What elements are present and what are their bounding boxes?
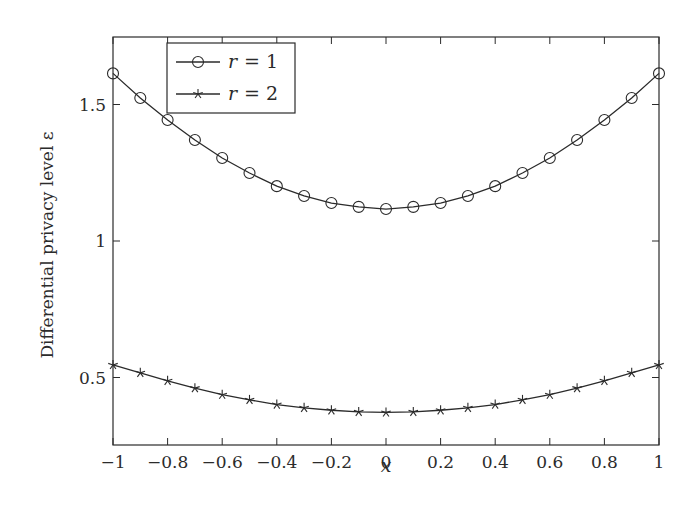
legend: r= 1r= 2 — [167, 43, 295, 113]
x-tick-label: 1 — [654, 452, 665, 472]
circle-marker-icon — [572, 134, 583, 145]
x-tick-label: −0.4 — [256, 452, 297, 472]
x-tick-label: 0.4 — [482, 452, 509, 472]
x-tick-label: 0.8 — [591, 452, 618, 472]
circle-marker-icon — [193, 57, 204, 68]
circle-marker-icon — [654, 68, 665, 79]
circle-marker-icon — [162, 115, 173, 126]
circle-marker-icon — [244, 168, 255, 179]
circle-marker-icon — [408, 201, 419, 212]
x-tick-label: −0.6 — [202, 452, 243, 472]
circle-marker-icon — [544, 153, 555, 164]
circle-marker-icon — [326, 198, 337, 209]
y-tick-label: 1.5 — [79, 95, 106, 115]
legend-label: = 2 — [244, 82, 278, 104]
x-tick-label: 0.2 — [427, 452, 454, 472]
circle-marker-icon — [271, 181, 282, 192]
circle-marker-icon — [381, 204, 392, 215]
circle-marker-icon — [462, 190, 473, 201]
circle-marker-icon — [490, 181, 501, 192]
x-tick-label: −0.8 — [147, 452, 188, 472]
x-tick-label: 0.6 — [536, 452, 563, 472]
x-tick-label: −0.2 — [311, 452, 352, 472]
series-2 — [108, 360, 664, 417]
circle-marker-icon — [189, 134, 200, 145]
y-tick-label: 1 — [95, 231, 106, 251]
circle-marker-icon — [517, 168, 528, 179]
circle-marker-icon — [135, 92, 146, 103]
circle-marker-icon — [353, 201, 364, 212]
circle-marker-icon — [599, 115, 610, 126]
line-chart: −1−0.8−0.6−0.4−0.200.20.40.60.81 0.511.5… — [0, 0, 695, 527]
series-layer — [108, 68, 665, 417]
legend-label: = 1 — [244, 50, 278, 72]
circle-marker-icon — [299, 190, 310, 201]
x-axis-title: x — [381, 454, 392, 476]
circle-marker-icon — [108, 68, 119, 79]
circle-marker-icon — [626, 92, 637, 103]
y-axis-title: Differential privacy level ε — [37, 131, 57, 358]
x-tick-label: −1 — [100, 452, 125, 472]
circle-marker-icon — [435, 198, 446, 209]
circle-marker-icon — [217, 153, 228, 164]
y-tick-label: 0.5 — [79, 368, 106, 388]
